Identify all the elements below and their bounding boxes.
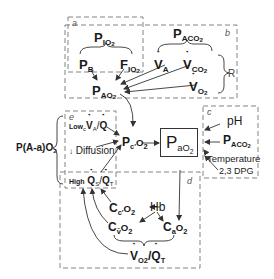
node-pc-prime-o2: Pc'O2 [122,136,148,150]
node-diffusion: ↓ Diffusion [69,146,115,156]
node-fio2: FIO2 [120,58,140,75]
node-pb: PB [79,58,93,74]
box-d-label: d [187,177,192,186]
node-vo2-qt: VO2/QT [130,250,165,264]
box-a-label: a [72,19,77,28]
box-c-label: c [207,108,212,117]
box-b-label: b [225,29,230,38]
node-r: R [228,69,235,79]
node-low-va-q: LowcVA/Q [69,121,107,132]
node-hb: Hb [150,201,165,213]
node-pao2-arterial: PaO2 [166,134,194,156]
node-pao2-alveolar: PAO2 [92,84,116,101]
node-paco2-arterial: PACO2 [223,134,251,150]
node-cc-prime-o2: Cc'O2 [109,202,135,216]
node-high-qs-qt: High QS/QT [69,176,113,187]
node-ca-o2: CaO2 [163,221,187,235]
node-cv-o2: Cv̄O2 [108,221,132,235]
node-ph: pH [227,115,242,127]
oxygenation-diagram: a b c d e PIO2 PB FIO2 PAO2 PACO2 VA VCO… [0,0,274,279]
node-paco2: PACO2 [173,27,203,44]
node-temperature: Temperature [207,154,260,164]
node-aa-gradient: P(A-a)O2 [16,143,57,154]
brace-vq [114,235,174,246]
node-dpg: 2,3 DPG [219,167,254,176]
node-va: VA [154,58,168,74]
node-pio2: PIO2 [94,31,115,48]
node-vo2: VO2 [189,80,207,97]
